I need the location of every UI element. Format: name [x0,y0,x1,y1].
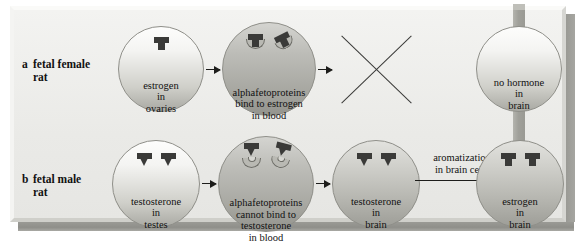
testosterone-molecule-icon [137,153,152,166]
row-label-b-line2: rat [33,186,81,199]
caption-line-3: testosterone [230,220,303,232]
testosterone-molecule-icon [274,142,292,158]
caption-line-2: bind to estrogen [233,98,306,110]
estrogen-molecule-icon [248,34,263,47]
node-estrogen-in-ovaries: estrogen in ovaries [118,26,204,112]
estrogen-molecule-icon [501,153,516,166]
node-caption: estrogen in ovaries [139,80,183,115]
row-letter-a: a [22,58,33,71]
caption-line-1: testosterone [131,196,181,208]
testosterone-molecule-icon [244,143,259,156]
caption-line-3: brain [351,219,401,231]
testosterone-unbound-receptor-icon-tilted [268,141,294,170]
row-label-b: bfetal male rat [22,173,81,199]
node-afp-cannot-bind-testosterone: alphafetoproteins cannot bind to testost… [218,136,314,232]
caption-line-1: testosterone [351,196,401,208]
estrogen-molecule-icon [154,37,169,50]
blocked-path-x-icon [341,34,411,104]
node-testosterone-in-testes: testosterone in testes [112,140,200,228]
caption-line-1: no hormone [494,77,544,89]
row-label-a-line2: rat [33,71,90,84]
caption-line-1: alphafetoproteins [233,86,306,98]
node-caption: testosterone in testes [127,196,185,231]
icon-group-unbound-complex [219,143,313,168]
icon-group-testosterone [113,153,199,166]
arrow-b-2 [316,183,330,184]
node-caption: testosterone in brain [347,196,405,231]
caption-line-2: cannot bind to [230,208,303,220]
caption-line-2: in [351,207,401,219]
caption-line-4: in blood [230,231,303,243]
caption-line-3: brain [502,219,538,231]
node-caption: alphafetoproteins bind to estrogen in bl… [229,86,310,121]
caption-line-3: in blood [233,109,306,121]
icon-group-bound-complex [223,32,315,49]
testosterone-molecule-icon [161,153,176,166]
icon-group-estrogen [477,153,563,166]
caption-line-3: ovaries [143,103,179,115]
caption-line-3: brain [494,100,544,112]
row-label-a-line1: fetal female [33,58,90,71]
node-estrogen-in-brain: estrogen in brain [476,140,564,228]
estrogen-bound-receptor-icon [245,32,266,49]
caption-line-1: estrogen [502,196,538,208]
caption-line-2: in [143,91,179,103]
caption-line-2: in [494,88,544,100]
node-caption: no hormone in brain [490,77,548,112]
row-label-a: afetal female rat [22,58,90,84]
diagram-figure: afetal female rat estrogen in ovaries [0,0,588,248]
panel-right-shadow [566,14,575,222]
caption-line-2: in [131,207,181,219]
alphafetoprotein-receptor-icon [242,158,261,168]
node-no-hormone-in-brain: no hormone in brain [476,26,562,112]
arrow-a-2 [318,69,332,70]
caption-line-1: alphafetoproteins [230,197,303,209]
row-label-b-line1: fetal male [33,173,81,186]
node-testosterone-in-brain: testosterone in brain [332,140,420,228]
node-afp-bind-to-estrogen: alphafetoproteins bind to estrogen in bl… [222,22,316,116]
node-caption: alphafetoproteins cannot bind to testost… [226,197,307,243]
node-caption: estrogen in brain [498,196,542,231]
icon-group-estrogen [119,37,203,50]
estrogen-molecule-icon [525,153,540,166]
estrogen-bound-receptor-icon-tilted [270,28,296,52]
arrow-a-1 [206,69,220,70]
caption-line-3: testes [131,219,181,231]
testosterone-unbound-receptor-icon [241,143,262,168]
icon-group-testosterone [333,153,419,166]
alphafetoprotein-receptor-icon [269,156,290,170]
arrow-b-1 [202,183,216,184]
caption-line-1: estrogen [143,80,179,92]
testosterone-molecule-icon [381,153,396,166]
testosterone-molecule-icon [357,153,372,166]
caption-line-2: in [502,207,538,219]
row-letter-b: b [22,173,33,186]
